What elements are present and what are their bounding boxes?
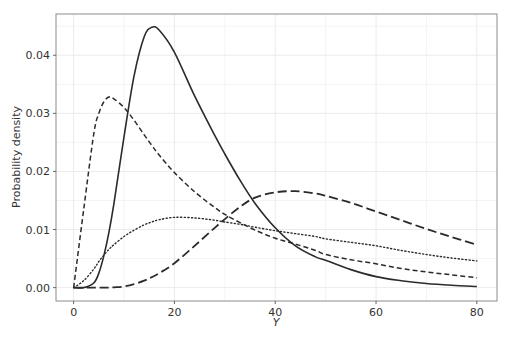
x-tick-label: 60 [369, 306, 383, 319]
x-tick-label: 20 [167, 306, 181, 319]
x-tick-label: 0 [70, 306, 77, 319]
y-tick-label: 0.03 [26, 107, 51, 120]
y-tick-label: 0.04 [26, 49, 51, 62]
y-axis-label: Probability density [10, 106, 23, 208]
y-tick-label: 0.00 [26, 282, 51, 295]
y-tick-label: 0.02 [26, 165, 51, 178]
density-chart: 0.000.010.020.030.04 020406080 Y Probabi… [0, 0, 510, 342]
y-tick-label: 0.01 [26, 224, 51, 237]
x-tick-label: 80 [470, 306, 484, 319]
